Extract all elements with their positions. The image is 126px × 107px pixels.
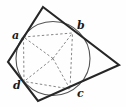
tangent-label-c: c [77,88,84,99]
radius-to-d [24,59,53,82]
radius-to-a [24,37,54,59]
geometry-figure: a b c d [0,0,126,107]
tangent-label-d: d [13,80,21,91]
tangent-label-a: a [12,30,19,41]
radius-to-c [53,59,70,90]
tangent-label-b: b [77,20,85,31]
circumscribed-quadrilateral [8,7,119,101]
radius-to-b [53,33,73,59]
